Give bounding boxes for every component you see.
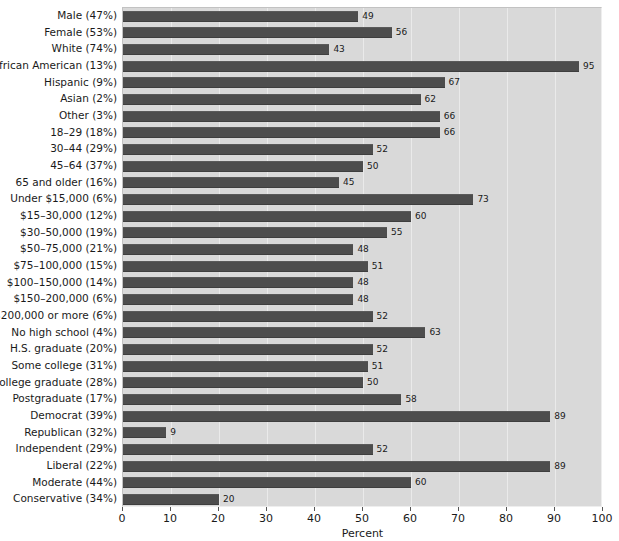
bar — [123, 27, 392, 38]
bar-value-label: 43 — [333, 45, 344, 54]
bar-value-label: 62 — [425, 95, 436, 104]
bar — [123, 294, 353, 305]
y-axis-tick-label: Independent (29%) — [16, 443, 117, 454]
x-axis-tick — [122, 507, 123, 511]
bar — [123, 61, 579, 72]
bar-value-label: 66 — [444, 128, 455, 137]
x-axis-tick — [266, 507, 267, 511]
bar-value-label: 20 — [223, 495, 234, 504]
x-axis-tick-label: 80 — [499, 513, 513, 524]
bar-row: 60 — [123, 208, 601, 225]
bar-row: 43 — [123, 41, 601, 58]
bar-value-label: 52 — [377, 445, 388, 454]
bar-row: 48 — [123, 291, 601, 308]
bar — [123, 344, 373, 355]
bar-value-label: 89 — [554, 412, 565, 421]
y-axis-tick-label: H.S. graduate (20%) — [10, 343, 117, 354]
bar — [123, 427, 166, 438]
bar-value-label: 63 — [429, 328, 440, 337]
y-axis-tick-label: Conservative (34%) — [13, 493, 117, 504]
y-axis-tick-label: White (74%) — [52, 43, 117, 54]
bar-row: 52 — [123, 441, 601, 458]
bar-row: 51 — [123, 358, 601, 375]
y-axis-tick-label: 18–29 (18%) — [50, 127, 117, 138]
y-axis-tick-label: No high school (4%) — [11, 327, 117, 338]
x-axis-tick-label: 20 — [211, 513, 225, 524]
x-axis-tick-label: 40 — [307, 513, 321, 524]
bar — [123, 277, 353, 288]
y-axis-tick-label: Under $15,000 (6%) — [10, 193, 117, 204]
x-axis-tick — [506, 507, 507, 511]
x-axis-tick — [362, 507, 363, 511]
y-axis-tick-label: African American (13%) — [0, 60, 117, 71]
bar-row: 60 — [123, 475, 601, 492]
bar — [123, 177, 339, 188]
bar-row: 51 — [123, 258, 601, 275]
bar — [123, 244, 353, 255]
bar-row: 95 — [123, 58, 601, 75]
bar-value-label: 48 — [357, 245, 368, 254]
y-axis-tick-label: Liberal (22%) — [47, 460, 117, 471]
x-axis-tick — [314, 507, 315, 511]
bar-row: 48 — [123, 275, 601, 292]
bar — [123, 161, 363, 172]
y-axis-tick-label: $200,000 or more (6%) — [0, 310, 117, 321]
y-axis-tick-label: Postgraduate (17%) — [12, 393, 117, 404]
bar-row: 67 — [123, 75, 601, 92]
bar-row: 48 — [123, 241, 601, 258]
bar — [123, 211, 411, 222]
y-axis-tick-label: $15–30,000 (12%) — [20, 210, 117, 221]
bar-row: 63 — [123, 325, 601, 342]
bar-value-label: 49 — [362, 12, 373, 21]
bar-row: 66 — [123, 108, 601, 125]
bar-row: 9 — [123, 425, 601, 442]
bar — [123, 227, 387, 238]
x-axis-tick-label: 30 — [259, 513, 273, 524]
x-axis-tick — [602, 507, 603, 511]
bar — [123, 361, 368, 372]
bar-value-label: 67 — [449, 78, 460, 87]
y-axis-tick-label: $75–100,000 (15%) — [13, 260, 117, 271]
x-axis-tick — [170, 507, 171, 511]
y-axis-tick-label: $30–50,000 (19%) — [20, 227, 117, 238]
bar — [123, 194, 473, 205]
bar-row: 56 — [123, 25, 601, 42]
bar-value-label: 50 — [367, 378, 378, 387]
bar-row: 45 — [123, 175, 601, 192]
y-axis-tick-label: Other (3%) — [59, 110, 117, 121]
x-axis-tick-label: 50 — [355, 513, 369, 524]
bar — [123, 11, 358, 22]
bar — [123, 261, 368, 272]
y-axis-tick-label: $150–200,000 (6%) — [13, 293, 117, 304]
x-axis-tick-label: 70 — [451, 513, 465, 524]
bar-row: 73 — [123, 191, 601, 208]
bar-chart: Male (47%)Female (53%)White (74%)African… — [0, 0, 619, 541]
y-axis-tick-label: 65 and older (16%) — [16, 177, 117, 188]
bar-value-label: 89 — [554, 462, 565, 471]
bar-value-label: 48 — [357, 295, 368, 304]
y-axis-tick-label: Female (53%) — [44, 27, 117, 38]
bar-row: 55 — [123, 225, 601, 242]
bar-row: 20 — [123, 491, 601, 507]
y-axis-tick-label: Hispanic (9%) — [44, 77, 117, 88]
bar-value-label: 51 — [372, 362, 383, 371]
bar-value-label: 73 — [477, 195, 488, 204]
bar-value-label: 56 — [396, 28, 407, 37]
bar-value-label: 9 — [170, 428, 176, 437]
bar — [123, 411, 550, 422]
bar — [123, 377, 363, 388]
y-axis-tick-label: $100–150,000 (14%) — [7, 277, 117, 288]
bar — [123, 94, 421, 105]
bar-value-label: 95 — [583, 62, 594, 71]
x-axis-tick-label: 90 — [547, 513, 561, 524]
bar-row: 52 — [123, 308, 601, 325]
bar — [123, 311, 373, 322]
bar — [123, 394, 401, 405]
bar — [123, 111, 440, 122]
y-axis-tick-label: $50–75,000 (21%) — [20, 243, 117, 254]
bar — [123, 444, 373, 455]
plot-area: 4956439567626666525045736055485148485263… — [122, 7, 602, 507]
bar-row: 66 — [123, 125, 601, 142]
y-axis-tick-label: Democrat (39%) — [30, 410, 117, 421]
bar-row: 49 — [123, 8, 601, 25]
